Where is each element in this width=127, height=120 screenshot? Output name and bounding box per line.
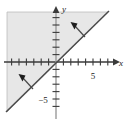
y-axis-label: y [61, 4, 66, 14]
x-axis-label: x [118, 58, 123, 68]
y-axis-arrowhead [53, 6, 60, 13]
y-tick-label-minus-5: −5 [38, 95, 48, 105]
graph-canvas: x y 5 −5 [0, 0, 127, 120]
inequality-graph-figure: x y 5 −5 [0, 0, 127, 120]
x-tick-label-5: 5 [91, 71, 96, 81]
